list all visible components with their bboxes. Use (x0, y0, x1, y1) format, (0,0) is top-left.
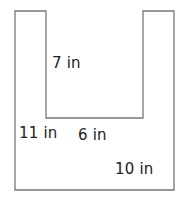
u-shape-diagram: 7 in 11 in 6 in 10 in (0, 0, 185, 203)
label-inner-width: 6 in (78, 128, 107, 143)
label-outer-height: 11 in (19, 126, 58, 141)
u-shape-outline (0, 0, 185, 203)
label-inner-depth: 7 in (52, 56, 81, 71)
label-outer-width: 10 in (115, 162, 154, 177)
